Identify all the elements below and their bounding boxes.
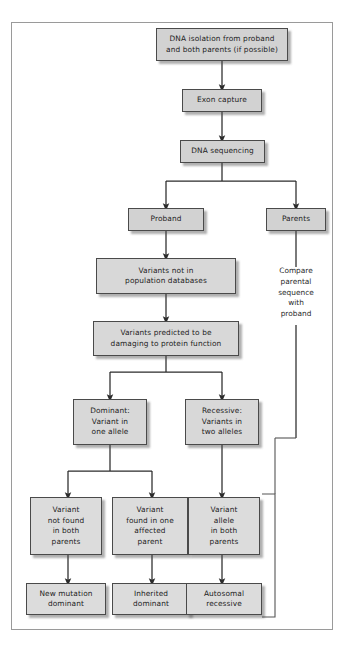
node-inherited-dominant-label: Inherited dominant [133,589,169,610]
node-variants-not-in-databases-label: Variants not in population databases [125,266,207,287]
node-new-mutation-dominant[interactable]: New mutation dominant [26,583,106,615]
node-autosomal-recessive-label: Autosomal recessive [204,589,244,610]
node-dna-isolation[interactable]: DNA isolation from proband and both pare… [156,28,288,61]
node-variant-allele-both-parents[interactable]: Variant allele in both parents [188,497,260,555]
node-new-mutation-dominant-label: New mutation dominant [39,589,92,610]
node-variant-found-one-parent[interactable]: Variant found in one affected parent [112,497,188,555]
node-variant-allele-both-parents-label: Variant allele in both parents [210,505,239,547]
node-variants-not-in-databases[interactable]: Variants not in population databases [96,258,236,294]
node-inherited-dominant[interactable]: Inherited dominant [112,583,190,615]
node-exon-capture-label: Exon capture [197,95,247,106]
node-recessive[interactable]: Recessive: Variants in two alleles [185,399,259,445]
node-dna-sequencing-label: DNA sequencing [191,146,254,157]
node-recessive-label: Recessive: Variants in two alleles [202,406,243,438]
node-parents-label: Parents [282,214,310,225]
node-variant-not-found-label: Variant not found in both parents [48,505,85,547]
node-variants-damaging-label: Variants predicted to be damaging to pro… [111,328,222,349]
node-autosomal-recessive[interactable]: Autosomal recessive [186,583,262,615]
node-parents[interactable]: Parents [266,208,326,231]
node-exon-capture[interactable]: Exon capture [182,89,262,112]
node-proband-label: Proband [150,214,181,225]
node-proband[interactable]: Proband [128,208,204,231]
node-variants-damaging[interactable]: Variants predicted to be damaging to pro… [93,321,239,356]
node-dominant-label: Dominant: Variant in one allele [90,406,130,438]
node-variant-not-found[interactable]: Variant not found in both parents [30,497,102,555]
node-dna-isolation-label: DNA isolation from proband and both pare… [166,34,278,55]
node-dna-sequencing[interactable]: DNA sequencing [180,140,265,163]
flowchart-figure: DNA isolation from proband and both pare… [0,0,346,648]
node-variant-found-one-parent-label: Variant found in one affected parent [126,505,174,547]
node-dominant[interactable]: Dominant: Variant in one allele [73,399,147,445]
annotation-compare-parental-sequence: Compare parental sequence with proband [262,266,330,320]
